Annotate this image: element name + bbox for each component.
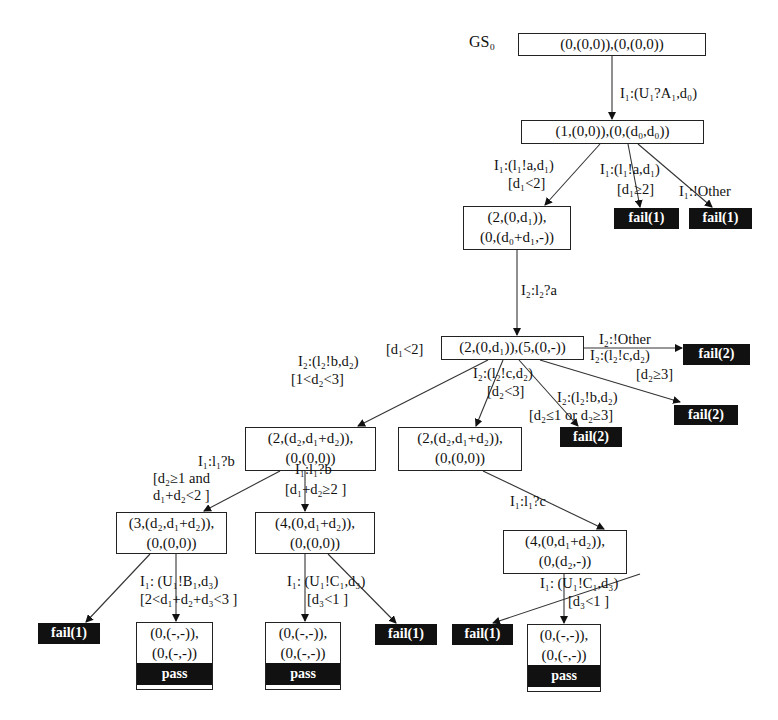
edge-label: I₁: (U₁!B₁,d₃) [140, 572, 218, 590]
node-text: (0,(-,-)) [528, 645, 600, 665]
edge-label: I₁: (U₁!C₁,d₃) [540, 574, 618, 592]
node-state-8: (4,(0,d₁+d₂)), (0,(d₂,-)) [503, 530, 627, 574]
edge-guard: [d₁<2] [508, 174, 545, 192]
fail-verdict: fail(2) [683, 344, 750, 365]
node-text: (0,(0,0)),(0,(0,0)) [519, 34, 705, 54]
node-text: (0,(d₀+d₁,-)) [464, 227, 570, 247]
fail-verdict: fail(1) [38, 623, 100, 644]
edge-label: I₂:l₂?a [521, 281, 557, 299]
edge-label: I₂:(l₂!b,d₂) [557, 388, 618, 406]
node-text: (3,(d₂,d₁+d₂)), [117, 513, 226, 533]
node-text: (0,(d₂,-)) [504, 551, 626, 571]
node-text: (0,(-,-)), [137, 623, 212, 643]
node-text: (0,(-,-)), [528, 625, 600, 645]
edge-label: I₁:(l₁!a,d₁) [494, 156, 554, 174]
fail-verdict: fail(2) [674, 405, 738, 425]
fail-verdict: fail(1) [452, 624, 513, 645]
edge-label: I₁:!Other [679, 182, 731, 200]
node-text: (4,(0,d₁+d₂)), [256, 513, 374, 533]
node-text: (2,(0,d₁)),(5,(0,-)) [442, 337, 583, 357]
edge-guard: [d₂≤1 or d₂≥3] [529, 406, 613, 424]
pass-node: (0,(-,-)), (0,(-,-)) pass [527, 624, 601, 692]
node-text: (0,(0,0)) [256, 533, 374, 553]
node-text: (2,(d₂,d₁+d₂)), [246, 428, 375, 448]
edge-guard: [1<d₂<3] [291, 370, 344, 388]
node-state-3: (2,(0,d₁)),(5,(0,-)) [441, 336, 584, 360]
node-text: (2,(d₂,d₁+d₂)), [399, 428, 521, 448]
node-text: (0,(0,0)) [117, 533, 226, 553]
fail-verdict: fail(1) [614, 208, 679, 229]
node-text: (0,(-,-)) [137, 643, 212, 663]
edge-label: I₁:(l₁!a,d₁) [600, 160, 660, 178]
edge-guard: [d₁+d₂≥2 ] [285, 480, 346, 498]
edge-label: I₁:l₁?b [295, 460, 332, 478]
edge-label: I₂:(l₂!c,d₂) [473, 364, 533, 382]
pass-verdict: pass [528, 665, 600, 687]
node-state-6: (3,(d₂,d₁+d₂)), (0,(0,0)) [116, 512, 227, 554]
fail-verdict: fail(2) [560, 427, 622, 447]
node-text: (0,(-,-)), [266, 623, 340, 643]
pass-verdict: pass [137, 663, 212, 685]
node-text: (4,(0,d₁+d₂)), [504, 531, 626, 551]
edge-guard: [d₂≥3] [636, 365, 673, 383]
edges-layer [0, 0, 778, 720]
node-text: (1,(0,0)),(0,(d₀,d₀)) [522, 121, 703, 141]
pass-node: (0,(-,-)), (0,(-,-)) pass [136, 622, 213, 690]
node-text: (0,(-,-)) [266, 643, 340, 663]
node-text: (0,(0,0)) [399, 448, 521, 468]
node-state-7: (4,(0,d₁+d₂)), (0,(0,0)) [255, 512, 375, 554]
edge-label: I₁:l₁?b [198, 452, 235, 470]
edge-label: I₂:(l₂!b,d₂) [298, 352, 359, 370]
fail-verdict: fail(1) [375, 624, 437, 645]
edge-guard: [d₂≥1 and [153, 469, 210, 487]
edge-label: I₂:(l₂!c,d₂) [590, 346, 650, 364]
edge-label: I₁: (U₁!C₁,d₃) [287, 572, 365, 590]
edge-label: I₁:l₁?c [510, 492, 546, 510]
edge-guard: [d₃<1 ] [307, 590, 348, 608]
node-state-1: (1,(0,0)),(0,(d₀,d₀)) [521, 120, 704, 144]
edge-n3-n4 [358, 360, 488, 426]
edge-guard: [2<d₁+d₂+d₃<3 ] [140, 590, 237, 608]
edge-n4-n6 [204, 471, 280, 511]
edge-guard: d₁+d₂<2 ] [153, 486, 210, 504]
edge-guard: [d₃<1 ] [568, 592, 609, 610]
node-gs0: (0,(0,0)),(0,(0,0)) [518, 33, 706, 56]
fail-verdict: fail(1) [689, 208, 752, 229]
pass-node: (0,(-,-)), (0,(-,-)) pass [265, 622, 341, 690]
node-state-2: (2,(0,d₁)), (0,(d₀+d₁,-)) [463, 206, 571, 250]
edge-guard: [d₂<3] [487, 382, 524, 400]
edge-n1-n2 [545, 144, 600, 205]
node-text: (2,(0,d₁)), [464, 207, 570, 227]
pass-verdict: pass [266, 663, 340, 685]
node-state-5: (2,(d₂,d₁+d₂)), (0,(0,0)) [398, 427, 522, 471]
edge-guard: [d₁≥2] [617, 180, 654, 198]
root-state-label: GS₀ [469, 33, 495, 51]
edge-label: I₁:(U₁?A₁,d₀) [620, 84, 697, 102]
node-guard: [d₁<2] [386, 340, 423, 358]
